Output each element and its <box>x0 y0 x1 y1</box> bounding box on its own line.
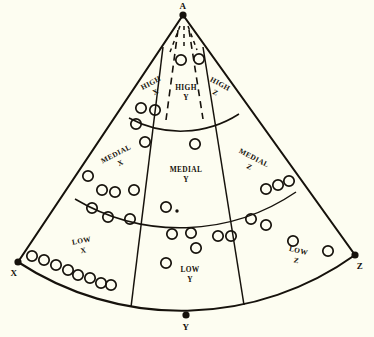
zone-label-low-z: LOWZ <box>286 244 309 267</box>
data-marker-medial-x <box>83 171 93 181</box>
data-marker-low-x <box>51 260 61 270</box>
zone-label-medial-z-line1: MEDIAL <box>238 146 271 169</box>
data-marker-medial-x <box>140 137 150 147</box>
vertex-label-x: X <box>11 268 18 278</box>
data-marker-low-x <box>106 280 116 290</box>
zone-label-medial-y-line1: MEDIAL <box>170 165 203 174</box>
vertex-label-z: Z <box>357 261 363 271</box>
zone-label-high-x: HIGHX <box>139 74 167 101</box>
zone-label-low-y-line2: Y <box>187 275 193 284</box>
zone-label-low-z-line2: Z <box>293 255 300 265</box>
data-marker-low-x <box>125 214 135 224</box>
vertex-label-y: Y <box>183 322 190 332</box>
zone-label-high-y-line1: HIGH <box>175 83 197 92</box>
data-marker-high-x <box>136 103 146 113</box>
data-marker-low-x <box>85 273 95 283</box>
data-marker-low-x <box>96 278 106 288</box>
zone-label-low-x-line2: X <box>80 245 88 255</box>
zone-label-medial-x-line2: X <box>116 157 125 168</box>
dashed-divider-high-xy <box>166 30 178 120</box>
vertex-label-a: A <box>180 1 187 11</box>
arc-high-medial <box>129 114 239 131</box>
data-marker-dot <box>175 209 178 212</box>
data-marker-medial-x <box>110 187 120 197</box>
data-marker-low-y <box>167 229 177 239</box>
data-marker-high-y <box>194 54 204 64</box>
data-marker-low-z <box>261 220 271 230</box>
zone-label-low-y-line1: LOW <box>180 265 199 274</box>
data-marker-low-y <box>226 231 236 241</box>
zone-label-low-x: LOWX <box>71 234 94 256</box>
zone-label-high-x-line2: X <box>151 86 161 97</box>
zone-label-high-z-line2: Z <box>211 87 220 97</box>
zone-label-medial-y: MEDIALY <box>170 165 203 184</box>
zone-label-medial-x: MEDIALX <box>99 142 137 174</box>
zone-label-high-y: HIGHY <box>175 83 197 102</box>
zone-label-low-y: LOWY <box>180 265 199 284</box>
data-marker-medial-z <box>284 176 294 186</box>
data-marker-medial-x <box>129 185 139 195</box>
data-marker-low-x <box>39 255 49 265</box>
vertex-dot-a <box>179 11 186 18</box>
data-marker-low-y <box>213 231 223 241</box>
fan-diagram-svg: A X Y Z HIGHXHIGHYHIGHZMEDIALXMEDIALYMED… <box>0 0 374 337</box>
zone-label-medial-z-line2: Z <box>245 161 254 171</box>
data-marker-medial-y <box>161 202 171 212</box>
data-marker-low-x <box>63 265 73 275</box>
zone-label-high-y-line2: Y <box>183 93 189 102</box>
data-marker-medial-x <box>131 119 141 129</box>
data-marker-high-y <box>176 55 186 65</box>
zone-label-medial-z: MEDIALZ <box>233 146 271 178</box>
data-marker-medial-x <box>97 185 107 195</box>
dashed-divider-high-yz <box>189 30 203 119</box>
data-marker-low-y <box>186 228 196 238</box>
data-marker-low-z <box>323 246 333 256</box>
vertex-dot-z <box>351 251 358 258</box>
fan-diagram-figure: A X Y Z HIGHXHIGHYHIGHZMEDIALXMEDIALYMED… <box>0 0 374 337</box>
data-marker-medial-z <box>273 180 283 190</box>
zone-label-medial-y-line2: Y <box>183 175 189 184</box>
data-marker-low-y <box>161 258 171 268</box>
vertex-dot-y <box>182 311 189 318</box>
data-marker-medial-z <box>261 184 271 194</box>
data-marker-medial-y <box>190 139 200 149</box>
vertex-dot-x <box>14 258 21 265</box>
data-marker-low-x <box>73 270 83 280</box>
zone-label-low-z-line1: LOW <box>288 244 309 257</box>
data-marker-low-y <box>191 243 201 253</box>
data-marker-low-x <box>27 251 37 261</box>
zone-label-low-x-line1: LOW <box>71 234 92 247</box>
zone-label-layer: HIGHXHIGHYHIGHZMEDIALXMEDIALYMEDIALZLOWX… <box>71 74 309 284</box>
